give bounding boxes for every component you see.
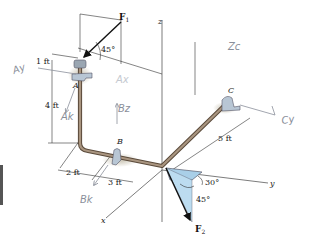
force-f2-angle-30: 30° — [205, 178, 219, 187]
force-f2-angle-45: 45° — [196, 195, 210, 204]
dimension-line — [60, 140, 80, 168]
hand-cz: Zc — [227, 41, 241, 52]
dim-4ft: 4 ft — [45, 101, 60, 110]
hand-ay: Ay — [10, 61, 28, 76]
hand-cy: Cy — [281, 113, 296, 126]
support-label-a: A — [72, 81, 79, 90]
dimension-line — [52, 54, 78, 58]
hand-ax: Ax — [115, 74, 129, 85]
dim-5ft: 5 ft — [218, 134, 233, 143]
statics-pipe-diagram: z x y A B C F1 45° — [0, 0, 312, 247]
dim-2ft: 2 ft — [66, 168, 81, 177]
pipe-highlight — [80, 68, 228, 166]
f2-angle-arc-horizontal — [198, 176, 203, 185]
dimension-line — [78, 48, 162, 74]
support-label-b: B — [116, 137, 123, 146]
dim-3ft: 3 ft — [108, 178, 123, 187]
dim-1ft: 1 ft — [36, 57, 51, 66]
force-f1-angle: 45° — [101, 45, 115, 54]
f1-construction-line — [80, 14, 121, 20]
force-f1-label: F1 — [119, 12, 129, 23]
hand-bk: Bk — [80, 194, 94, 205]
pipe — [80, 68, 228, 166]
hand-bz: Bz — [118, 103, 131, 114]
hand-ak: Ak — [60, 111, 75, 122]
hand-ak-arrow — [66, 88, 75, 112]
z-axis-label: z — [157, 17, 163, 26]
force-f2-label: F2 — [195, 224, 205, 235]
bearing-c — [222, 96, 240, 111]
y-axis-label: y — [269, 179, 275, 188]
hand-cy-arrow — [240, 105, 275, 115]
x-axis-label: x — [101, 216, 106, 225]
support-label-c: C — [228, 86, 234, 95]
page-edge-bar — [0, 165, 3, 205]
